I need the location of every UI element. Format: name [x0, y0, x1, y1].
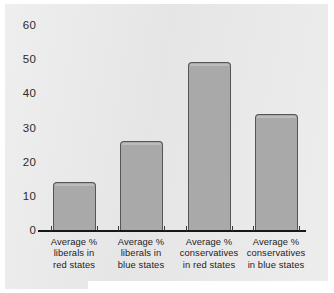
axis-tick-mark: [253, 226, 254, 231]
category-label-line-3: blue states: [105, 259, 177, 270]
axis-tick-mark: [51, 226, 52, 231]
y-axis-tick-label-10: 10: [10, 191, 36, 202]
category-label-line-2: liberals in: [38, 247, 110, 258]
category-label-liberals-red-states: Average % liberals in red states: [38, 236, 110, 270]
y-axis-tick-label-30: 30: [10, 123, 36, 134]
axis-tick-mark: [186, 226, 187, 231]
x-axis-line: [38, 230, 306, 232]
axis-tick-mark: [164, 226, 165, 231]
category-label-conservatives-red-states: Average % conservatives in red states: [173, 236, 245, 270]
scan-bottom-margin: [0, 289, 334, 293]
category-label-line-1: Average %: [173, 236, 245, 247]
category-label-line-3: in blue states: [240, 259, 312, 270]
category-label-line-1: Average %: [105, 236, 177, 247]
category-label-line-2: conservatives: [240, 247, 312, 258]
category-label-conservatives-blue-states: Average % conservatives in blue states: [240, 236, 312, 270]
category-label-line-2: liberals in: [105, 247, 177, 258]
bar-conservatives-blue-states[interactable]: [255, 114, 298, 230]
category-label-line-1: Average %: [38, 236, 110, 247]
category-label-line-3: red states: [38, 259, 110, 270]
category-label-line-1: Average %: [240, 236, 312, 247]
category-label-line-3: in red states: [173, 259, 245, 270]
axis-tick-mark: [299, 226, 300, 231]
category-label-line-2: conservatives: [173, 247, 245, 258]
axis-tick-mark: [97, 226, 98, 231]
y-axis-tick-label-40: 40: [10, 88, 36, 99]
bar-liberals-red-states[interactable]: [53, 182, 96, 230]
axis-tick-mark: [118, 226, 119, 231]
y-axis-tick-label-50: 50: [10, 54, 36, 65]
bar-conservatives-red-states[interactable]: [188, 62, 231, 230]
axis-tick-mark: [232, 226, 233, 231]
y-axis-tick-label-0: 0: [10, 225, 36, 236]
bar-chart: 60 50 40 30 20 10 0 Average % liberals i…: [0, 0, 334, 293]
y-axis-tick-label-60: 60: [10, 20, 36, 31]
y-axis-tick-label-20: 20: [10, 157, 36, 168]
category-label-liberals-blue-states: Average % liberals in blue states: [105, 236, 177, 270]
bar-liberals-blue-states[interactable]: [120, 141, 163, 230]
